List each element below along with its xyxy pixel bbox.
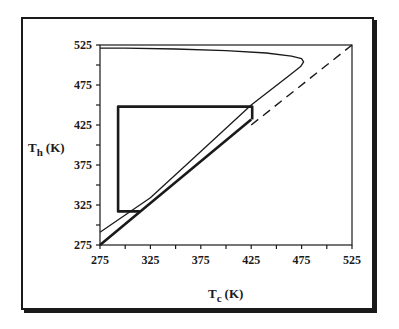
y-tick-label: 275: [74, 238, 92, 252]
y-axis-title: Th(K): [28, 140, 65, 158]
x-tick-label: 475: [293, 253, 311, 267]
y-tick-label: 525: [74, 38, 92, 52]
x-tick-label: 275: [91, 253, 109, 267]
y-tick-label: 425: [74, 118, 92, 132]
plot-area: 275325375425475525 275325375425475525: [74, 38, 361, 267]
x-axis: 275325375425475525: [91, 245, 361, 267]
svg-text:Th(K): Th(K): [28, 140, 65, 158]
y-axis: 275325375425475525: [74, 38, 100, 252]
svg-text:Tc(K): Tc(K): [208, 286, 243, 304]
y-tick-label: 475: [74, 78, 92, 92]
x-tick-label: 425: [242, 253, 260, 267]
series-lower-boundary-line: [100, 119, 251, 245]
chart: 275325375425475525 275325375425475525 Th…: [0, 0, 399, 329]
x-tick-label: 525: [343, 253, 361, 267]
series-group: [100, 45, 352, 245]
x-tick-label: 375: [192, 253, 210, 267]
y-tick-label: 325: [74, 198, 92, 212]
x-axis-title: Tc(K): [208, 286, 243, 304]
series-closed-boundary-curve: [100, 48, 304, 232]
y-tick-label: 375: [74, 158, 92, 172]
series-t-h-t-c-dashed: [251, 45, 352, 125]
x-tick-label: 325: [141, 253, 159, 267]
